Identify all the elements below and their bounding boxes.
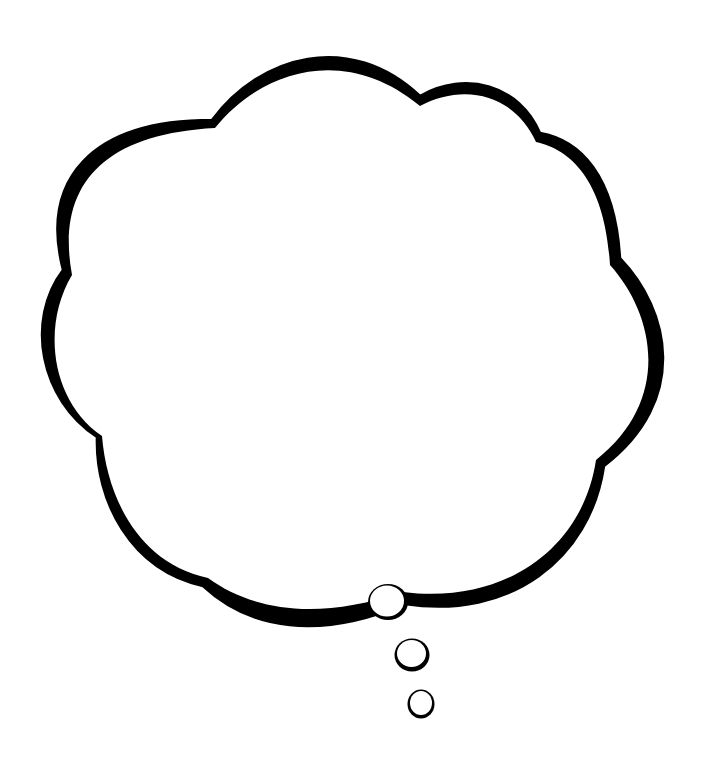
trail-bubble-large-inner: [370, 586, 404, 617]
trail-bubble-small-inner: [410, 691, 432, 715]
trail-bubble-medium-inner: [397, 640, 426, 667]
thought-bubble-illustration: Thought bubble cloud: [0, 0, 701, 760]
